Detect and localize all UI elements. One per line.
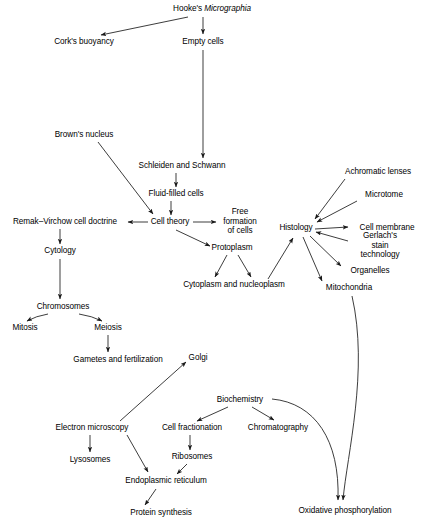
node-achromatic-lenses: Achromatic lenses — [345, 167, 411, 177]
node-protein-synthesis: Protein synthesis — [130, 508, 192, 518]
node-schleiden-and-schwann: Schleiden and Schwann — [139, 161, 226, 171]
node-cell-fractionation: Cell fractionation — [162, 423, 222, 433]
node-golgi: Golgi — [189, 353, 208, 363]
edge-electron-microscopy-to-golgi — [120, 362, 186, 421]
edge-histology-to-organelles — [310, 236, 341, 266]
node-hookes-micrographia: Hooke's Micrographia — [173, 4, 251, 14]
edge-histology-to-cell-membrane — [315, 227, 348, 229]
edge-chromosomes-to-meiosis — [79, 314, 102, 321]
edge-ribosomes-to-er — [177, 464, 187, 474]
edge-cytoplasm-nucleoplasm-to-histology — [268, 238, 293, 279]
edge-chromosomes-to-mitosis — [27, 314, 48, 321]
node-gerlachs-stain-technology: Gerlach's stain technology — [358, 231, 402, 260]
edge-browns-nucleus-to-cell-theory — [98, 142, 153, 214]
node-gametes-and-fertilization: Gametes and fertilization — [73, 355, 162, 365]
node-microtome: Microtome — [365, 190, 403, 200]
node-empty-cells: Empty cells — [182, 37, 223, 47]
node-ribosomes: Ribosomes — [172, 452, 213, 462]
edge-cell-theory-to-protoplasm — [176, 230, 210, 246]
node-electron-microscopy: Electron microscopy — [56, 423, 129, 433]
node-oxidative-phosphorylation: Oxidative phosphorylation — [299, 506, 392, 516]
edge-hooke-to-corks-buoyancy — [101, 17, 188, 35]
node-biochemistry: Biochemistry — [217, 395, 263, 405]
edge-er-to-protein-synthesis — [145, 489, 156, 505]
edge-electron-microscopy-to-er — [127, 435, 148, 472]
node-cell-theory: Cell theory — [151, 217, 190, 227]
node-mitosis: Mitosis — [12, 323, 37, 333]
node-fluid-filled-cells: Fluid-filled cells — [148, 189, 203, 199]
node-browns-nucleus: Brown's nucleus — [55, 130, 114, 140]
node-endoplasmic-reticulum: Endoplasmic reticulum — [125, 476, 206, 486]
node-chromatography: Chromatography — [248, 423, 308, 433]
node-free-formation-of-cells: Free formation of cells — [223, 207, 257, 236]
edge-biochemistry-to-chromatography — [252, 407, 274, 420]
edge-microtome-to-histology — [317, 201, 357, 222]
node-cytology: Cytology — [44, 246, 75, 256]
edge-biochemistry-to-cell-fractionation — [197, 407, 228, 421]
edge-mitochondria-to-oxidative-phosphorylation — [343, 296, 358, 500]
node-organelles: Organelles — [350, 266, 389, 276]
edge-protoplasm-to-nucleoplasm-right — [238, 255, 251, 277]
flowchart-canvas: Hooke's Micrographia Cork's buoyancy Emp… — [0, 0, 424, 532]
edge-protoplasm-to-cytoplasm-left — [215, 255, 227, 277]
node-mitochondria: Mitochondria — [326, 283, 372, 293]
node-chromosomes: Chromosomes — [37, 302, 90, 312]
node-corks-buoyancy: Cork's buoyancy — [54, 37, 114, 47]
node-cytoplasm-and-nucleoplasm: Cytoplasm and nucleoplasm — [183, 280, 285, 290]
edge-gerlachs-stain-to-histology — [316, 232, 348, 241]
edge-histology-to-mitochondria — [303, 237, 322, 281]
node-protoplasm: Protoplasm — [212, 243, 253, 253]
node-remak-virchow-cell-doctrine: Remak–Virchow cell doctrine — [13, 217, 117, 227]
node-lysosomes: Lysosomes — [70, 455, 111, 465]
node-meiosis: Meiosis — [94, 323, 121, 333]
edge-biochemistry-to-oxidative-phosphorylation — [272, 399, 338, 500]
edge-achromatic-lenses-to-histology — [315, 179, 345, 219]
node-histology: Histology — [279, 223, 312, 233]
